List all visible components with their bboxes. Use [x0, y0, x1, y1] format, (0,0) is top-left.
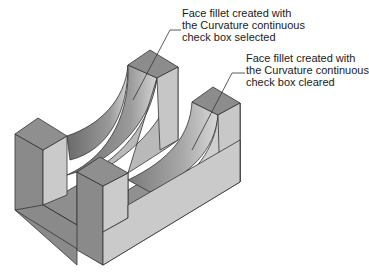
callout-line: check box cleared — [246, 76, 369, 88]
callout-line: the Curvature continuous — [246, 64, 369, 76]
middle-block-left — [77, 172, 103, 265]
callout-curvature-cleared: Face fillet created with the Curvature c… — [246, 52, 369, 88]
callout-curvature-selected: Face fillet created with the Curvature c… — [182, 7, 305, 43]
callout-line: Face fillet created with — [182, 7, 305, 19]
callout-line: Face fillet created with — [246, 52, 369, 64]
callout-line: the Curvature continuous — [182, 19, 305, 31]
back-block-right — [157, 67, 178, 150]
callout-line: check box selected — [182, 31, 305, 43]
